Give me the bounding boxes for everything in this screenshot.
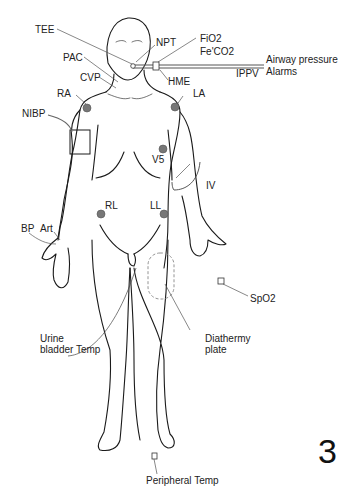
label-npt: NPT <box>156 37 176 48</box>
label-ll: LL <box>150 200 161 211</box>
label-peripheral-temp: Peripheral Temp <box>146 475 219 486</box>
label-la: LA <box>193 88 205 99</box>
label-ippv: IPPV <box>236 68 259 79</box>
label-airway-pressure: Airway pressure <box>266 54 338 65</box>
label-v5: V5 <box>152 154 164 165</box>
label-cvp: CVP <box>80 72 101 83</box>
label-rl: RL <box>105 200 118 211</box>
label-ra: RA <box>57 88 71 99</box>
label-iv: IV <box>206 180 215 191</box>
label-spo2: SpO2 <box>250 293 276 304</box>
label-diathermy-plate: Diathermy plate <box>205 333 251 355</box>
label-urine-bladder-temp: Urine bladder Temp <box>40 333 100 355</box>
body-outline-drawing <box>0 0 358 493</box>
label-alarms: Alarms <box>266 66 297 77</box>
label-nibp: NIBP <box>22 108 45 119</box>
label-bp: BP <box>21 223 34 234</box>
label-pac: PAC <box>63 52 83 63</box>
label-fio2: FiO2 <box>200 33 222 44</box>
label-art: Art <box>40 223 53 234</box>
figure-number: 3 <box>318 432 337 471</box>
label-tee: TEE <box>35 24 54 35</box>
label-hme: HME <box>168 76 190 87</box>
monitoring-diagram: TEE NPT FiO2 Fe'CO2 Airway pressure Alar… <box>0 0 358 493</box>
label-feco2: Fe'CO2 <box>200 46 234 57</box>
